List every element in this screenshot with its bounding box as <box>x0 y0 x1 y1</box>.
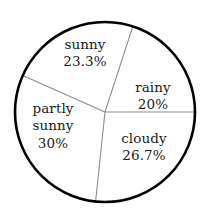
pie-chart: sunny 23.3% rainy 20% cloudy 26.7% partl… <box>0 0 210 222</box>
pie-chart-graphic <box>0 0 210 222</box>
pie-slice-cloudy <box>96 112 195 202</box>
